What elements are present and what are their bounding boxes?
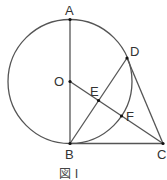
label-a: A xyxy=(65,3,74,18)
point-b xyxy=(68,142,71,145)
label-f: F xyxy=(126,109,134,124)
segment-dc xyxy=(127,58,163,144)
point-c xyxy=(161,142,164,145)
point-o xyxy=(68,80,71,83)
label-b: B xyxy=(65,147,74,162)
point-f xyxy=(120,114,123,117)
point-d xyxy=(125,56,128,59)
label-o: O xyxy=(54,74,64,89)
label-d: D xyxy=(130,44,139,59)
figure-caption: 図 I xyxy=(59,167,78,180)
point-a xyxy=(68,18,71,21)
geometry-diagram: A O D E F B C 図 I xyxy=(0,0,167,180)
label-c: C xyxy=(157,147,166,162)
label-e: E xyxy=(90,84,99,99)
point-e xyxy=(97,99,100,102)
segment-oc xyxy=(70,82,163,144)
